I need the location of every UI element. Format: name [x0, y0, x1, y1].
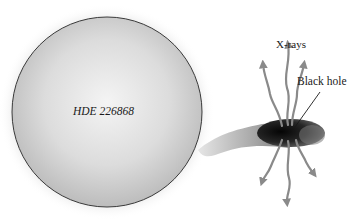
- x-ray-arrow-up-right: [292, 64, 304, 125]
- x-ray-arrow-down-left: [262, 140, 282, 182]
- x-rays-label: X-rays: [276, 38, 306, 50]
- black-hole-label: Black hole: [297, 75, 347, 87]
- x-ray-arrow-up: [286, 44, 289, 125]
- binary-system-diagram: HDE 226868 X-rays Black hole: [0, 0, 350, 224]
- x-ray-arrow-down: [287, 141, 290, 203]
- disk-highlight: [299, 125, 325, 145]
- diagram-canvas: [0, 0, 350, 224]
- star-label: HDE 226868: [73, 105, 134, 117]
- x-ray-arrow-up-left: [263, 64, 282, 126]
